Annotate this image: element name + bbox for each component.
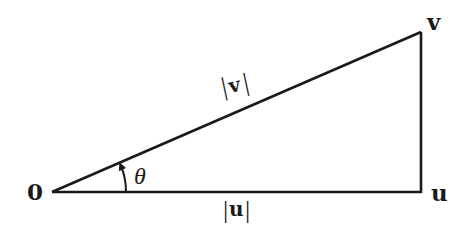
abs-bar-left: |	[223, 195, 228, 224]
abs-bar-right: |	[240, 67, 251, 96]
vertex-u-label: u	[431, 179, 448, 206]
vector-triangle-diagram: 0 v u θ | v | | u |	[0, 0, 467, 234]
base-length-label: | u |	[223, 195, 250, 224]
edge-hypotenuse-v	[52, 32, 421, 192]
abs-bar-right: |	[245, 195, 250, 224]
origin-label: 0	[27, 178, 43, 205]
angle-arc-arrow-icon	[121, 166, 126, 192]
magnitude-u-symbol: u	[229, 197, 244, 221]
vertex-v-label: v	[426, 8, 441, 35]
angle-theta-label: θ	[134, 163, 146, 189]
hypotenuse-length-label: | v |	[219, 67, 252, 101]
